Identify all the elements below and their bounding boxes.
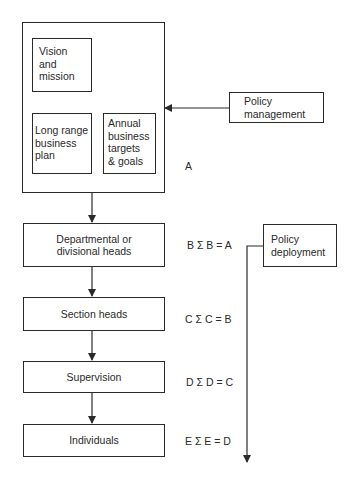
- dept-line-2: divisional heads: [57, 245, 132, 258]
- equation-e: E Σ E = D: [185, 435, 231, 447]
- annual-targets-box: Annual business targets & goals: [103, 113, 156, 174]
- individuals-box: Individuals: [23, 424, 165, 457]
- individuals-label: Individuals: [69, 434, 119, 447]
- plan-line-1: Long range: [35, 124, 91, 137]
- policy-deployment-line-2: deployment: [271, 246, 336, 259]
- policy-management-line-1: Policy: [244, 95, 323, 108]
- label-a: A: [185, 160, 192, 172]
- annual-line-3: targets: [108, 142, 155, 155]
- policy-deployment-box: Policy deployment: [263, 224, 337, 267]
- vision-mission-box: Vision and mission: [32, 38, 92, 92]
- section-heads-box: Section heads: [23, 297, 165, 331]
- long-range-plan-box: Long range business plan: [32, 113, 92, 174]
- departmental-heads-box: Departmental or divisional heads: [23, 223, 165, 267]
- equation-d: D Σ D = C: [186, 376, 233, 388]
- section-heads-label: Section heads: [61, 308, 128, 321]
- policy-management-line-2: management: [244, 108, 323, 121]
- plan-line-2: business: [35, 137, 91, 150]
- vision-line-2: and: [39, 58, 91, 71]
- arrow-policy-deployment: [247, 246, 263, 462]
- policy-management-box: Policy management: [229, 92, 324, 123]
- supervision-box: Supervision: [23, 361, 165, 393]
- annual-line-2: business: [108, 130, 155, 143]
- equation-b: B Σ B = A: [187, 239, 232, 251]
- policy-deployment-line-1: Policy: [271, 233, 336, 246]
- annual-line-4: & goals: [108, 155, 155, 168]
- equation-c: C Σ C = B: [185, 313, 231, 325]
- dept-line-1: Departmental or: [56, 233, 131, 246]
- supervision-label: Supervision: [67, 371, 122, 384]
- plan-line-3: plan: [35, 149, 91, 162]
- vision-line-3: mission: [39, 70, 91, 83]
- vision-line-1: Vision: [39, 45, 91, 58]
- annual-line-1: Annual: [108, 117, 155, 130]
